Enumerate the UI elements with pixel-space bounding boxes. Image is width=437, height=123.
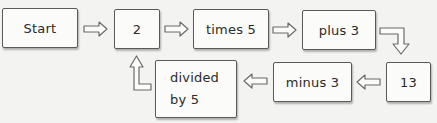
node-plus-3-label: plus 3 [319,23,359,38]
node-divided-by-5-line2: by 5 [170,89,199,111]
node-divided-by-5-line1: divided [170,67,219,89]
node-divided-by-5: divided by 5 [155,60,237,118]
arrow-left-icon [242,73,268,89]
node-minus-3-label: minus 3 [286,75,339,90]
node-start-label: Start [24,21,57,36]
arrow-left-icon [355,74,381,90]
node-times-5-label: times 5 [206,22,256,37]
node-start: Start [2,8,78,48]
arrow-right-icon [83,21,109,37]
node-2-label: 2 [133,22,141,37]
arrow-right-icon [272,22,298,38]
arrow-right-down-icon [379,26,413,56]
node-2: 2 [114,9,160,49]
node-times-5: times 5 [193,9,269,49]
node-13-label: 13 [400,75,417,90]
node-minus-3: minus 3 [273,62,352,102]
node-plus-3: plus 3 [302,10,376,50]
node-13: 13 [386,62,431,102]
arrow-up-left-icon [129,54,153,92]
arrow-right-icon [164,21,190,37]
